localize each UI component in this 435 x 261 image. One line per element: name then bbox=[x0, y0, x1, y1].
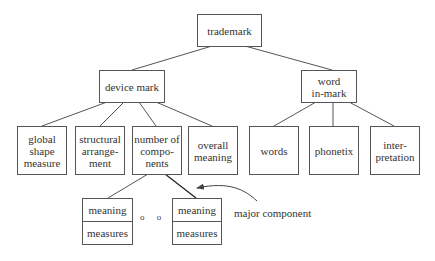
component-box-first: meaning measures bbox=[82, 198, 133, 245]
node-words: words bbox=[249, 126, 299, 175]
major-component-label: major component bbox=[234, 207, 311, 219]
component-box-major: meaning measures bbox=[172, 198, 222, 245]
node-structural-arrangement: structural arrange- ment bbox=[75, 126, 125, 175]
component-meaning: meaning bbox=[83, 199, 132, 222]
component-measures: measures bbox=[83, 222, 132, 245]
node-interpretation: inter- pretation bbox=[370, 126, 420, 175]
node-trademark: trademark bbox=[197, 14, 262, 47]
component-measures: measures bbox=[173, 222, 221, 245]
node-global-shape-measure: global shape measure bbox=[17, 126, 67, 175]
node-number-of-components: number of compo- nents bbox=[132, 126, 182, 175]
node-overall-meaning: overall meaning bbox=[188, 126, 238, 175]
node-device-mark: device mark bbox=[99, 70, 165, 103]
node-word-in-mark: word in-mark bbox=[301, 70, 357, 103]
component-meaning: meaning bbox=[173, 199, 221, 222]
node-phonetix: phonetix bbox=[309, 126, 359, 175]
